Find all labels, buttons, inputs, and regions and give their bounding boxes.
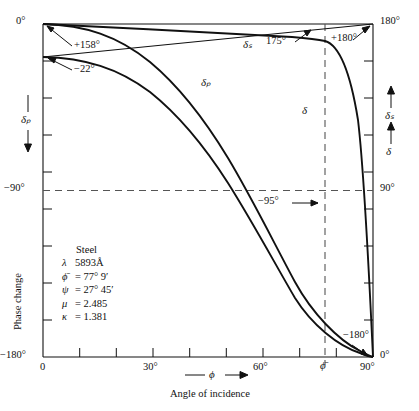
phase-change-chart: 0° −90° −180° 180° 90° 0° 0 30° 60° 90° … <box>0 0 419 411</box>
x-axis-ticks <box>80 348 337 357</box>
x-symbol-arrow-head <box>240 372 248 379</box>
legend-value: = 1.381 <box>75 310 107 323</box>
legend-symbol: ψ <box>62 283 75 296</box>
legend-row: ϕ̄ = 77° 9′ <box>62 270 114 283</box>
curve-label-delta-s: δₛ <box>243 39 252 50</box>
annotation-minus-95: −95° <box>258 196 279 207</box>
legend-row: κ = 1.381 <box>62 310 114 323</box>
legend-symbol: λ <box>62 256 75 269</box>
chart-canvas <box>0 0 419 411</box>
x-axis-symbol-phi: ϕ <box>209 369 215 380</box>
x-axis-title: Angle of incidence <box>170 389 250 400</box>
legend-value: 5893Å <box>75 256 104 269</box>
y-tick-top-left: 0° <box>16 16 25 27</box>
y-axis-title: Phase change <box>13 273 24 330</box>
legend-symbol: ϕ̄ <box>62 270 75 283</box>
legend-value: = 27° 45′ <box>75 283 114 296</box>
legend-row: μ = 2.485 <box>62 297 114 310</box>
x-tick-30: 30° <box>143 362 158 373</box>
annotation-minus-180: −180° <box>343 330 369 341</box>
y-tick-top-right: 180° <box>380 16 400 27</box>
annotation-175: 175° <box>266 36 286 47</box>
right-arrow-head-upper <box>388 86 395 94</box>
legend-material: Steel <box>62 243 114 256</box>
x-tick-phi-bar: ϕ̄ <box>320 360 326 371</box>
legend-value: = 2.485 <box>75 297 107 310</box>
legend-symbol: κ <box>62 310 75 323</box>
curve-label-delta-p: δₚ <box>201 77 211 88</box>
legend-value: = 77° 9′ <box>75 270 108 283</box>
y-tick-bottom-left: −180° <box>0 350 26 361</box>
curve-label-delta: δ <box>302 105 307 116</box>
y-tick-mid-left: −90° <box>4 183 25 194</box>
legend-row: ψ = 27° 45′ <box>62 283 114 296</box>
annotation-plus-180: +180° <box>331 33 357 44</box>
legend-row: λ 5893Å <box>62 256 114 269</box>
right-axis-symbol-delta-s: δₛ <box>385 110 394 121</box>
x-tick-90: 90° <box>360 362 375 373</box>
right-axis-symbol-delta: δ <box>386 146 391 157</box>
y-tick-mid-right: 90° <box>380 183 395 194</box>
legend-symbol: μ <box>62 297 75 310</box>
x-tick-0: 0 <box>40 362 45 373</box>
x-tick-60: 60° <box>253 362 268 373</box>
parameter-legend: Steel λ 5893Å ϕ̄ = 77° 9′ ψ = 27° 45′ μ … <box>62 243 114 324</box>
left-arrow-head-down <box>25 144 32 152</box>
right-arrow-head-lower <box>388 122 395 130</box>
annotation-minus-22: −22° <box>74 64 95 75</box>
annotation-plus-158: +158° <box>74 40 100 51</box>
y-tick-bottom-right: 0° <box>380 350 389 361</box>
left-axis-symbol-delta-p: δₚ <box>21 114 31 125</box>
